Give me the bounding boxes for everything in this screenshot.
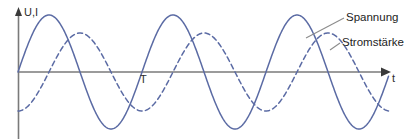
y-axis-arrow-icon bbox=[15, 7, 22, 16]
leader-line-stromstaerke bbox=[330, 43, 340, 50]
legend-label-spannung: Spannung bbox=[346, 11, 398, 23]
legend-label-stromstaerke: Stromstärke bbox=[342, 36, 404, 48]
x-axis-arrow-icon bbox=[381, 68, 391, 77]
leader-line-spannung bbox=[306, 18, 344, 38]
waveform-diagram: U,I t T Spannung Stromstärke bbox=[0, 0, 419, 139]
y-axis-label: U,I bbox=[24, 7, 38, 18]
period-marker-label: T bbox=[140, 74, 147, 85]
x-axis-label: t bbox=[392, 73, 395, 84]
